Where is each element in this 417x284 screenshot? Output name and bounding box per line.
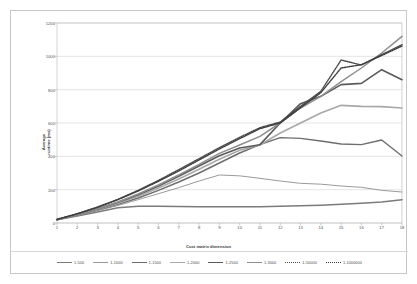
series-line-1-50000 [57,45,402,220]
legend-swatch-icon [132,262,147,263]
legend-swatch-icon [208,262,223,263]
x-tick-label: 5 [137,225,139,230]
x-tick-label: 1 [56,225,58,230]
x-tick-label: 18 [400,225,405,230]
x-tick-label: 13 [298,225,303,230]
chart-legend: 1-5001-10001-15001-20001-25001-30001-500… [11,251,408,273]
legend-item-1-1000[interactable]: 1-1000 [93,260,122,265]
legend-swatch-icon [247,262,262,263]
x-tick-label: 15 [339,225,344,230]
x-tick-label: 2 [76,225,78,230]
x-tick-label: 3 [96,225,98,230]
legend-item-1-3000[interactable]: 1-3000 [247,260,276,265]
legend-label: 1-1000 [110,260,122,265]
legend-label: 1-50000 [302,260,317,265]
x-axis-title: Cost matrix dimension [11,244,406,249]
y-tick-label: 200 [29,187,57,192]
legend-item-1-1000000[interactable]: 1-1000000 [326,260,362,265]
x-tick-label: 16 [359,225,364,230]
legend-swatch-icon [57,262,72,263]
x-tick-label: 8 [198,225,200,230]
legend-item-1-50000[interactable]: 1-50000 [285,260,317,265]
y-axis-title: Average runtime (ms) [41,119,52,165]
legend-swatch-icon [170,262,185,263]
y-tick-label: 1000 [29,54,57,59]
x-tick-label: 11 [258,225,262,230]
y-tick-label: 800 [29,87,57,92]
legend-swatch-icon [326,262,341,263]
series-line-1-1000 [57,175,402,220]
legend-label: 1-3000 [264,260,276,265]
series-line-1-3000 [57,36,402,219]
legend-swatch-icon [93,262,108,263]
x-axis-ticks: 123456789101112131415161718 [57,223,402,233]
legend-item-1-500[interactable]: 1-500 [57,260,84,265]
legend-label: 1-1000000 [343,260,362,265]
legend-label: 1-1500 [149,260,161,265]
plot-area [11,11,408,241]
x-tick-label: 14 [318,225,323,230]
series-line-1-1000000 [57,46,402,219]
x-tick-label: 12 [278,225,283,230]
x-tick-label: 10 [237,225,242,230]
legend-label: 1-2000 [187,260,199,265]
x-tick-label: 9 [218,225,220,230]
x-tick-label: 6 [157,225,159,230]
chart-frame: 020040060080010001200 123456789101112131… [10,10,407,274]
legend-item-1-2500[interactable]: 1-2500 [208,260,237,265]
legend-item-1-2000[interactable]: 1-2000 [170,260,199,265]
legend-label: 1-2500 [225,260,237,265]
x-tick-label: 7 [178,225,180,230]
y-axis-title-line2: runtime (ms) [46,119,51,165]
plot-svg [11,11,408,241]
x-tick-label: 17 [379,225,384,230]
legend-label: 1-500 [74,260,84,265]
x-tick-label: 4 [117,225,119,230]
y-tick-label: 1200 [29,21,57,26]
legend-item-1-1500[interactable]: 1-1500 [132,260,161,265]
y-tick-label: 0 [29,221,57,226]
legend-swatch-icon [285,262,300,263]
